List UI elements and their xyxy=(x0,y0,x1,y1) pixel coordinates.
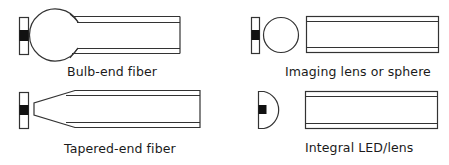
imaging-lens-drawing xyxy=(252,17,439,54)
led-source-icon xyxy=(20,93,29,129)
label-integral-led-lens: Integral LED/lens xyxy=(305,140,413,155)
led-source-icon xyxy=(20,18,29,55)
label-bulb-end-fiber: Bulb-end fiber xyxy=(67,64,157,79)
bulb-end-fiber-drawing xyxy=(20,9,181,61)
tapered-end-fiber-drawing xyxy=(20,91,201,129)
bulb-fiber-icon xyxy=(29,9,180,61)
coupling-methods-diagram: Bulb-end fiber Imaging lens or sphere Ta… xyxy=(0,0,449,165)
label-imaging-lens: Imaging lens or sphere xyxy=(285,64,431,79)
led-dome-icon xyxy=(259,92,279,129)
integral-led-lens-drawing xyxy=(259,92,438,129)
led-source-icon xyxy=(252,18,260,54)
sphere-lens-icon xyxy=(264,18,299,53)
tapered-fiber-icon xyxy=(34,91,200,128)
label-tapered-end-fiber: Tapered-end fiber xyxy=(64,141,176,156)
fiber-icon xyxy=(306,92,438,129)
fiber-icon xyxy=(307,17,439,53)
